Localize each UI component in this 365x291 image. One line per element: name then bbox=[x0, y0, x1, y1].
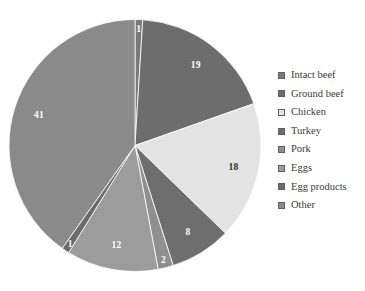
pie-slice-value-label: 18 bbox=[229, 162, 239, 172]
legend-item[interactable]: Chicken bbox=[278, 103, 364, 122]
legend-item[interactable]: Ground beef bbox=[278, 85, 364, 104]
pie-slice-value-label: 41 bbox=[34, 110, 44, 120]
pie-chart-figure: 119188212141 Intact beefGround beefChick… bbox=[0, 0, 365, 291]
legend-item[interactable]: Pork bbox=[278, 140, 364, 159]
legend-item[interactable]: Eggs bbox=[278, 159, 364, 178]
legend-swatch-icon bbox=[278, 128, 285, 135]
legend-item[interactable]: Turkey bbox=[278, 122, 364, 141]
legend-item[interactable]: Egg products bbox=[278, 178, 364, 197]
legend-item-label: Chicken bbox=[291, 107, 326, 118]
pie-plot-area: 119188212141 bbox=[8, 8, 266, 283]
legend-swatch-icon bbox=[278, 146, 285, 153]
pie-slice-value-label: 8 bbox=[186, 227, 191, 237]
pie-slice-value-label: 12 bbox=[112, 240, 122, 250]
legend-swatch-icon bbox=[278, 109, 285, 116]
pie-slice-group bbox=[9, 20, 261, 272]
legend-swatch-icon bbox=[278, 183, 285, 190]
legend-item-label: Ground beef bbox=[291, 89, 344, 100]
pie-slice-value-label: 1 bbox=[68, 239, 73, 249]
legend-item-label: Turkey bbox=[291, 126, 321, 137]
legend-item-label: Pork bbox=[291, 144, 311, 155]
legend-item[interactable]: Other bbox=[278, 196, 364, 215]
pie-svg: 119188212141 bbox=[8, 8, 266, 283]
legend-item-label: Intact beef bbox=[291, 70, 336, 81]
legend-item-label: Eggs bbox=[291, 163, 312, 174]
legend-item-label: Other bbox=[291, 200, 315, 211]
chart-legend: Intact beefGround beefChickenTurkeyPorkE… bbox=[278, 66, 364, 215]
legend-swatch-icon bbox=[278, 72, 285, 79]
legend-swatch-icon bbox=[278, 165, 285, 172]
pie-slice-value-label: 1 bbox=[136, 24, 141, 34]
pie-slice-value-label: 2 bbox=[161, 255, 166, 265]
legend-item-label: Egg products bbox=[291, 182, 347, 193]
legend-item[interactable]: Intact beef bbox=[278, 66, 364, 85]
legend-swatch-icon bbox=[278, 90, 285, 97]
legend-swatch-icon bbox=[278, 202, 285, 209]
pie-slice-value-label: 19 bbox=[191, 60, 201, 70]
